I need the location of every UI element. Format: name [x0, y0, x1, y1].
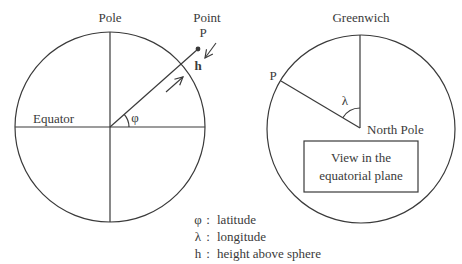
point-p-label-right: P — [269, 68, 276, 83]
legend: φ : latitude λ : longitude h : height ab… — [194, 212, 321, 261]
legend-item-longitude: λ : longitude — [195, 229, 266, 244]
height-arrow-inward — [205, 43, 216, 58]
equatorial-view: Greenwich P λ North Pole View in the equ… — [267, 10, 455, 223]
legend-symbol: h — [195, 246, 202, 261]
equatorial-circle — [267, 35, 455, 223]
legend-text: height above sphere — [217, 246, 321, 261]
equator-label: Equator — [33, 111, 75, 126]
north-pole-label: North Pole — [367, 122, 424, 137]
longitude-symbol: λ — [342, 93, 349, 108]
legend-separator: : — [206, 246, 210, 261]
legend-separator: : — [206, 212, 210, 227]
pole-label: Pole — [98, 10, 121, 25]
coordinate-diagram: Pole Point P h Equator φ Greenwich P λ N… — [0, 0, 462, 264]
caption-line-1: View in the — [331, 150, 391, 165]
meridian-view: Pole Point P h Equator φ — [15, 10, 221, 222]
point-p-dot — [196, 47, 201, 52]
latitude-arc — [124, 114, 129, 127]
point-p-label: P — [199, 25, 206, 40]
greenwich-label: Greenwich — [332, 10, 390, 25]
legend-separator: : — [206, 229, 210, 244]
radius-to-point — [110, 49, 198, 127]
legend-symbol: φ — [194, 212, 202, 227]
legend-item-height: h : height above sphere — [195, 246, 321, 261]
height-label: h — [194, 58, 202, 73]
latitude-symbol: φ — [131, 110, 139, 125]
legend-symbol: λ — [195, 229, 202, 244]
height-arrow-outward — [166, 77, 183, 92]
legend-text: longitude — [217, 229, 266, 244]
legend-text: latitude — [217, 212, 256, 227]
legend-item-latitude: φ : latitude — [194, 212, 256, 227]
caption-line-2: equatorial plane — [319, 168, 403, 183]
caption-box — [304, 141, 418, 192]
point-label: Point — [193, 10, 221, 25]
longitude-arc — [343, 108, 360, 118]
